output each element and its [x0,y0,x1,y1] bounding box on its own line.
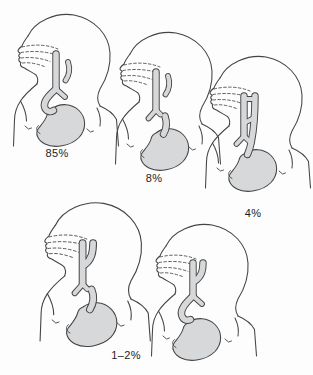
figure-double-fistula [152,224,257,360]
medical-diagram: 85% 8% 4% 1–2% [0,0,313,375]
anatomy-distal-fistula [37,54,85,146]
anatomy-double-fistula [173,263,221,360]
label-8-percent: 8% [146,172,163,184]
figure-4-percent [206,56,311,191]
diagram-canvas [0,0,313,375]
figure-8-percent [116,32,221,170]
label-1-2-percent: 1–2% [111,349,141,361]
label-85-percent: 85% [45,147,68,159]
anatomy-no-fistula [141,72,189,170]
anatomy-proximal-fistula [66,243,116,346]
anatomy-h-type-fistula [229,96,277,191]
figure-85-percent [14,14,119,146]
figure-1-2-percent [40,203,150,347]
label-4-percent: 4% [245,207,262,219]
